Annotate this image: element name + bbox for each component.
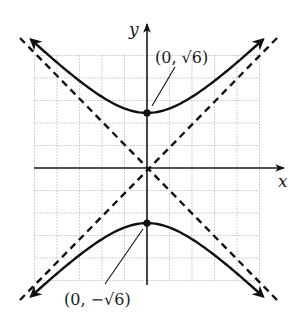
vertex-top-point [143, 109, 150, 116]
vertex-top-label: (0, √6) [155, 48, 208, 67]
y-axis-label: y [128, 19, 139, 39]
vertex-bottom-label: (0, −√6) [64, 290, 131, 309]
asymptote-negative-slope [20, 38, 277, 300]
leader-line-bottom [105, 229, 143, 284]
vertex-bottom-point [143, 220, 150, 227]
x-axis-label: x [278, 171, 288, 191]
hyperbola-graph: y x (0, √6) (0, −√6) [0, 0, 304, 331]
